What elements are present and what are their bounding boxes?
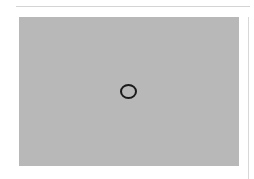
top-divider	[16, 6, 250, 7]
page	[0, 0, 254, 179]
circle-icon[interactable]	[120, 84, 137, 99]
right-divider	[248, 17, 249, 179]
